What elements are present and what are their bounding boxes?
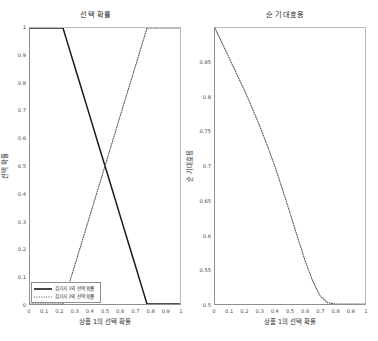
right-xtick-0.8: 0.8: [331, 308, 339, 314]
left-xtick-0: 0: [27, 308, 30, 314]
left-ytick-0.4: 0.4: [12, 191, 26, 197]
legend-solid-line-icon: [34, 286, 52, 292]
right-xtick-0: 0: [212, 308, 215, 314]
right-ytick-0.8: 0.8: [197, 94, 211, 100]
left-xtick-1: 1: [179, 308, 182, 314]
left-plot-area: [29, 27, 181, 305]
left-chart-title: 선택 확률: [0, 9, 192, 19]
left-ytick-0.6: 0.6: [12, 135, 26, 141]
right-xtick-0.9: 0.9: [347, 308, 355, 314]
left-xaxis-label: 상품 1의 선택 확률: [79, 317, 131, 326]
left-xtick-0.4: 0.4: [86, 308, 94, 314]
right-ytick-0.65: 0.65: [197, 198, 211, 204]
legend-label-series2: 참가자 2의 선택 확률: [55, 294, 94, 300]
left-xtick-0.5: 0.5: [101, 308, 109, 314]
left-ytick-0.5: 0.5: [12, 163, 26, 169]
right-xtick-0.4: 0.4: [271, 308, 279, 314]
left-ytick-0.8: 0.8: [12, 80, 26, 86]
left-ytick-0.9: 0.9: [12, 52, 26, 58]
left-ytick-1: 1: [12, 24, 26, 30]
right-xaxis-label: 상품 1의 선택 확률: [264, 317, 316, 326]
legend-entry-series2: 참가자 2의 선택 확률: [34, 293, 98, 301]
right-yaxis-label: 순 기대효용: [185, 150, 194, 182]
left-xtick-0.8: 0.8: [146, 308, 154, 314]
right-xtick-0.1: 0.1: [225, 308, 233, 314]
left-ytick-0.2: 0.2: [12, 246, 26, 252]
right-xtick-0.7: 0.7: [316, 308, 324, 314]
right-chart-title: 순 기대효용: [192, 9, 378, 19]
legend-label-series1: 참가자 1의 선택 확률: [55, 286, 94, 292]
left-yaxis-label: 선택 확률: [0, 153, 9, 179]
right-plot-area: [214, 27, 366, 305]
right-xtick-0.3: 0.3: [255, 308, 263, 314]
left-ytick-0.7: 0.7: [12, 107, 26, 113]
right-ytick-0.85: 0.85: [197, 59, 211, 65]
left-xtick-0.3: 0.3: [70, 308, 78, 314]
left-ytick-0.1: 0.1: [12, 274, 26, 280]
right-ytick-0.75: 0.75: [197, 128, 211, 134]
series-line-2: [30, 28, 180, 304]
left-xtick-0.6: 0.6: [116, 308, 124, 314]
right-ytick-0.7: 0.7: [197, 163, 211, 169]
right-xtick-0.5: 0.5: [286, 308, 294, 314]
left-plot-lines: [30, 28, 180, 304]
left-ytick-0: 0: [12, 302, 26, 308]
legend-entry-series1: 참가자 1의 선택 확률: [34, 285, 98, 293]
left-xtick-0.1: 0.1: [40, 308, 48, 314]
series-line-1: [215, 28, 365, 304]
right-ytick-0.6: 0.6: [197, 233, 211, 239]
left-chart-legend: 참가자 1의 선택 확률 참가자 2의 선택 확률: [31, 282, 101, 303]
left-xtick-0.7: 0.7: [131, 308, 139, 314]
right-ytick-0.5: 0.5: [197, 302, 211, 308]
left-ytick-0.3: 0.3: [12, 219, 26, 225]
right-plot-lines: [215, 28, 365, 304]
left-xtick-0.2: 0.2: [55, 308, 63, 314]
right-ytick-0.55: 0.55: [197, 267, 211, 273]
right-xtick-0.2: 0.2: [240, 308, 248, 314]
left-xtick-0.9: 0.9: [162, 308, 170, 314]
right-xtick-0.6: 0.6: [301, 308, 309, 314]
figure-canvas: 선택 확률 순 기대효용 00.10.20.30.40.50.60.70.80.…: [0, 0, 378, 341]
right-xtick-1: 1: [364, 308, 367, 314]
legend-dotted-line-icon: [34, 294, 52, 300]
